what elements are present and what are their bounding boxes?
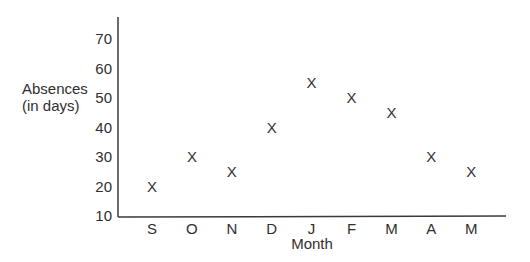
y-tick-label: 70 <box>82 30 112 47</box>
y-tick-label: 60 <box>82 60 112 77</box>
x-tick-label: S <box>142 220 162 237</box>
x-tick-label: M <box>461 220 481 237</box>
scatter-chart: Absences (in days) 10203040506070 SONDJF… <box>0 0 530 262</box>
data-point-x-marker: X <box>383 105 399 121</box>
data-point-x-marker: X <box>463 164 479 180</box>
y-tick-label: 50 <box>82 89 112 106</box>
y-tick-label: 10 <box>82 207 112 224</box>
data-point-x-marker: X <box>423 149 439 165</box>
y-axis-label: Absences (in days) <box>22 80 88 114</box>
data-point-x-marker: X <box>264 120 280 136</box>
y-tick-label: 20 <box>82 178 112 195</box>
x-tick-label: A <box>421 220 441 237</box>
data-point-x-marker: X <box>144 179 160 195</box>
y-tick-label: 30 <box>82 148 112 165</box>
x-axis-label: Month <box>272 235 352 252</box>
x-tick-label: N <box>222 220 242 237</box>
data-point-x-marker: X <box>344 90 360 106</box>
y-axis-label-line-1: Absences <box>22 80 88 97</box>
data-point-x-marker: X <box>304 75 320 91</box>
data-point-x-marker: X <box>184 149 200 165</box>
x-tick-label: O <box>182 220 202 237</box>
x-tick-label: M <box>381 220 401 237</box>
x-axis-line <box>118 216 506 217</box>
y-tick-label: 40 <box>82 119 112 136</box>
data-point-x-marker: X <box>224 164 240 180</box>
y-axis-label-line-2: (in days) <box>22 97 88 114</box>
